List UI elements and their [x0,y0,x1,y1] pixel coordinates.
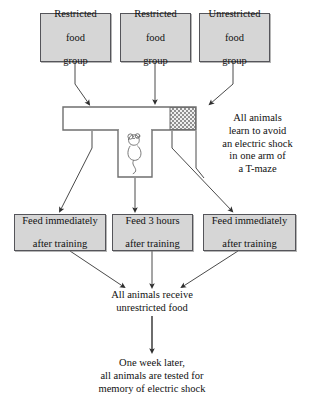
feed-label-line2: after training [113,238,192,250]
arrow-group3-to-maze [210,62,233,104]
maze-caption-line3: an electric shock [222,138,293,149]
feed-label-line1: Feed 3 hours [113,215,192,227]
group-label-line3: group [200,55,269,67]
memory-test-step: One week later, all animals are tested f… [42,357,262,395]
group-label-line3: group [121,55,190,67]
maze-caption: All animals learn to avoid an electric s… [205,112,310,176]
shock-zone [170,108,196,130]
group-label-line1: Restricted [41,8,110,20]
maze-caption-line2: learn to avoid [229,125,287,136]
feed-box-3-hours[interactable]: Feed 3 hours after training [112,214,193,251]
maze-caption-line1: All animals [233,112,282,123]
test-step-line1: One week later, [119,357,185,368]
t-maze [63,107,196,177]
group-box-restricted-1[interactable]: Restricted food group [40,13,111,62]
feed-label-line1: Feed immediately [15,215,105,227]
group-box-restricted-2[interactable]: Restricted food group [120,13,191,62]
maze-caption-line4: in one arm of [229,150,285,161]
feed-label-line2: after training [15,238,105,250]
feed-box-immediately-2[interactable]: Feed immediately after training [203,214,296,251]
arrow-group1-to-maze [75,62,89,104]
feed-box-immediately-1[interactable]: Feed immediately after training [14,214,106,251]
group-label-line2: food [121,32,190,44]
group-box-unrestricted[interactable]: Unrestricted food group [199,13,270,62]
mouse-illustration [128,134,141,174]
arrow-feed3-to-unrestricted [182,251,238,287]
arrow-maze-to-feed1 [60,131,92,211]
arrow-shockzone-to-caption [196,131,204,178]
flowchart-canvas: Restricted food group Restricted food gr… [0,0,312,403]
feed-label-line1: Feed immediately [204,215,295,227]
group-label-line3: group [41,55,110,67]
group-label-line1: Unrestricted [200,8,269,20]
maze-caption-line5: a T-maze [238,163,276,174]
unrestricted-food-step: All animals receive unrestricted food [62,289,242,315]
group-label-line1: Restricted [121,8,190,20]
feed-label-line2: after training [204,238,295,250]
group-label-line2: food [200,32,269,44]
unrestricted-step-line1: All animals receive [111,289,193,300]
group-label-line2: food [41,32,110,44]
test-step-line2: all animals are tested for [100,370,203,381]
arrow-feed1-to-unrestricted [70,251,124,287]
unrestricted-step-line2: unrestricted food [116,302,187,313]
test-step-line3: memory of electric shock [99,383,206,394]
